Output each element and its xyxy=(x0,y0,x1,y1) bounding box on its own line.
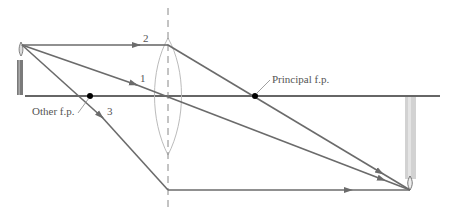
principal-fp-leader xyxy=(256,80,270,94)
other-focal-point xyxy=(87,93,93,99)
ray-3-label: 3 xyxy=(107,105,113,117)
other-fp-label: Other f.p. xyxy=(32,105,75,117)
image-candle xyxy=(405,97,416,190)
object-candle xyxy=(17,42,23,95)
ray-1-label: 1 xyxy=(140,72,146,84)
ray-diagram: 2 1 3 Principal f.p. Other f.p. xyxy=(0,0,453,217)
ray-diagram-svg: 2 1 3 Principal f.p. Other f.p. xyxy=(0,0,453,217)
principal-focal-point xyxy=(252,93,258,99)
ray-2-label: 2 xyxy=(143,32,149,44)
object-flame-icon xyxy=(19,42,23,56)
principal-fp-label: Principal f.p. xyxy=(272,73,329,85)
ray-1 xyxy=(22,45,410,190)
